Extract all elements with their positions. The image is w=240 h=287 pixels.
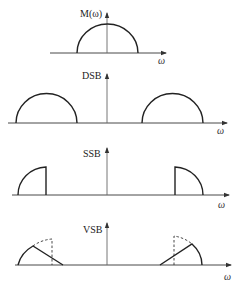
upper-vsb-spectrum xyxy=(160,244,202,265)
panel-ssb: SSB ω xyxy=(12,148,229,210)
modulation-spectra-diagram: M(ω) ω DSB ω SSB ω VSB ω xyxy=(0,0,240,287)
panel-label: M(ω) xyxy=(80,8,102,20)
baseband-spectrum xyxy=(77,24,138,53)
omega-axis-label: ω xyxy=(218,199,225,210)
lower-sideband xyxy=(18,167,46,195)
omega-axis-label: ω xyxy=(158,55,165,66)
omega-axis-label: ω xyxy=(217,125,224,136)
lower-vsb-spectrum xyxy=(18,246,63,265)
panel-label: DSB xyxy=(82,70,102,81)
lower-band xyxy=(16,94,77,123)
panel-vsb: VSB ω xyxy=(15,223,231,282)
omega-axis-label: ω xyxy=(224,271,231,282)
panel-label: SSB xyxy=(83,148,101,159)
panel-dsb: DSB ω xyxy=(8,70,227,136)
panel-baseband: M(ω) ω xyxy=(50,8,166,66)
upper-band xyxy=(142,94,203,123)
upper-sideband xyxy=(175,167,203,195)
panel-label: VSB xyxy=(83,224,103,235)
